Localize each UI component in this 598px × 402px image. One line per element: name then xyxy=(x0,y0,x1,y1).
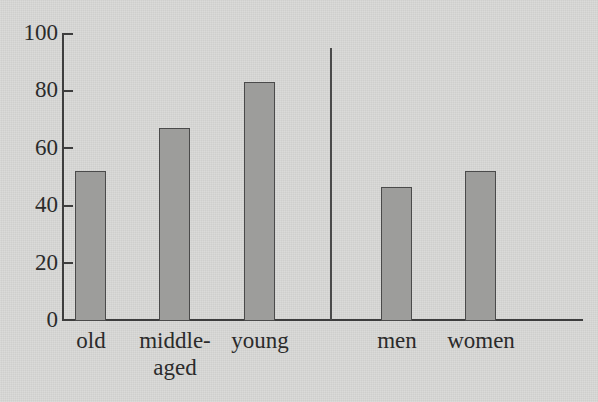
x-label-women: women xyxy=(432,327,530,354)
x-label-old: old xyxy=(50,327,132,354)
y-axis-line xyxy=(62,33,64,321)
y-tick-label-80: 80 xyxy=(4,78,58,101)
plot-area: 100 80 60 40 20 0 old middle- aged young… xyxy=(0,0,598,402)
bar-middle-aged xyxy=(159,128,190,321)
bar-chart-figure: 100 80 60 40 20 0 old middle- aged young… xyxy=(0,0,598,402)
bar-men xyxy=(381,187,412,321)
bar-young xyxy=(244,82,275,321)
x-axis-line xyxy=(62,319,583,321)
y-tick-label-40: 40 xyxy=(4,193,58,216)
x-label-middle-aged: middle- aged xyxy=(128,327,222,381)
bar-old xyxy=(75,171,106,321)
y-tick-mark-60 xyxy=(64,147,73,149)
y-tick-label-60: 60 xyxy=(4,136,58,159)
x-label-young: young xyxy=(214,327,306,354)
group-divider-line xyxy=(330,48,332,320)
y-tick-mark-40 xyxy=(64,205,73,207)
y-tick-label-20: 20 xyxy=(4,251,58,274)
y-tick-mark-0 xyxy=(64,319,73,321)
y-tick-mark-100 xyxy=(64,33,73,35)
x-label-men: men xyxy=(356,327,438,354)
y-tick-mark-20 xyxy=(64,262,73,264)
y-tick-mark-80 xyxy=(64,90,73,92)
y-tick-label-100: 100 xyxy=(4,21,58,44)
bar-women xyxy=(465,171,496,321)
